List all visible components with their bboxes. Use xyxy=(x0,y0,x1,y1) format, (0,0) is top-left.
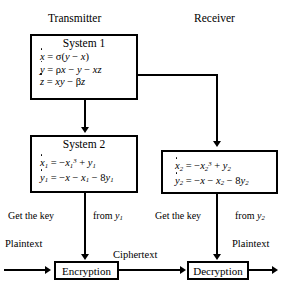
arrowhead-flow-output xyxy=(272,266,278,274)
system1-equations: x = σ(y − x) y = ρx − y − xz z = xy − βz xyxy=(32,51,136,89)
system1-box: System 1 x = σ(y − x) y = ρx − y − xz z … xyxy=(30,34,138,100)
system1-title: System 1 xyxy=(32,37,136,50)
connector-system1-to-system2 xyxy=(84,100,86,128)
arrowhead-receiver-to-decryption xyxy=(213,254,221,260)
arrowhead-flow-ciphertext xyxy=(180,266,186,274)
arrowhead-system2-to-encryption xyxy=(81,254,89,260)
receiver-system-box: x2 = −x23 + y2 y2 = −x − x2 − 8y2 xyxy=(161,150,278,194)
system2-box: System 2 x1 = −x13 + y1 y1 = −x − x1 − 8… xyxy=(30,135,138,193)
flow-line-input xyxy=(4,269,46,271)
arrowhead-flow-input xyxy=(45,266,51,274)
system2-equations: x1 = −x13 + y1 y1 = −x − x1 − 8y1 xyxy=(32,155,136,187)
connector-system1-to-receiver-vertical xyxy=(216,74,218,142)
label-plaintext-input: Plaintext xyxy=(5,238,42,249)
system2-equation-2: y1 = −x − x1 − 8y1 xyxy=(40,172,136,187)
connector-system2-to-encryption xyxy=(84,193,86,255)
key-right-suffix: from y2 xyxy=(235,210,265,221)
receiver-equation-1: x2 = −x23 + y2 xyxy=(175,158,276,175)
system1-equation-3: z = xy − βz xyxy=(40,76,136,89)
arrowhead-system1-to-receiver xyxy=(213,141,221,147)
receiver-equation-2: y2 = −x − x2 − 8y2 xyxy=(175,175,276,190)
arrowhead-system1-to-system2 xyxy=(81,127,89,133)
key-right-prefix: Get the key xyxy=(155,210,201,221)
header-receiver: Receiver xyxy=(194,12,235,24)
system1-equation-2: y = ρx − y − xz xyxy=(40,64,136,77)
decryption-box: Decryption xyxy=(187,261,249,280)
system2-equation-1: x1 = −x13 + y1 xyxy=(40,155,136,172)
system2-title: System 2 xyxy=(32,138,136,151)
key-left-suffix: from y1 xyxy=(93,210,123,221)
label-plaintext-output: Plaintext xyxy=(232,238,269,249)
diagram-canvas: Transmitter Receiver System 1 x = σ(y − … xyxy=(0,0,293,295)
receiver-system-equations: x2 = −x23 + y2 y2 = −x − x2 − 8y2 xyxy=(163,158,276,190)
system1-equation-1: x = σ(y − x) xyxy=(40,51,136,64)
flow-line-ciphertext xyxy=(119,269,181,271)
encryption-box: Encryption xyxy=(54,261,119,280)
header-transmitter: Transmitter xyxy=(48,12,101,24)
connector-receiver-to-decryption xyxy=(216,194,218,255)
connector-system1-to-receiver-horizontal xyxy=(138,74,218,76)
label-ciphertext: Ciphertext xyxy=(113,249,157,260)
key-left-prefix: Get the key xyxy=(8,210,54,221)
